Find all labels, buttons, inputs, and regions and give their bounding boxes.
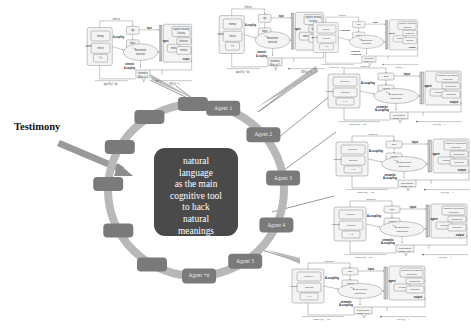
ring-node-shape xyxy=(178,97,208,111)
sd-sign-box: sign xyxy=(384,206,400,213)
sd-self-box-label: I / it xyxy=(349,233,353,236)
sd-interaction-ellipse-label: interaction xyxy=(268,41,278,44)
sd-interface-box: interface xyxy=(403,37,417,43)
agent-subdiagram[interactable]: memoryinterestI / itcontextrefers tosign… xyxy=(217,5,324,73)
sd-context-ellipse-link xyxy=(360,91,374,94)
agent-subdiagram[interactable]: memoryinterestI / itcontextrefers tosign… xyxy=(289,260,426,321)
agent-subdiagram[interactable]: memoryinterestI / itcontextrefers tosign… xyxy=(333,133,470,194)
center-statement-line: as the main xyxy=(175,179,218,189)
sd-interest-box-label: interest xyxy=(305,286,314,289)
sd-a-coupling-label: A-coupling xyxy=(245,23,256,28)
sd-self-box-label: I / it xyxy=(343,100,347,103)
sd-interaction-ellipse-label: interaction xyxy=(398,165,410,168)
sd-interface-box-label: interface xyxy=(454,161,464,164)
sd-a-coupling-label: A-coupling xyxy=(361,81,375,85)
ring-node-unlabeled[interactable] xyxy=(137,258,167,272)
sd-right-formula: P(P(x)) = 1 xyxy=(440,190,454,194)
sd-interaction-ellipse-label: interaction xyxy=(396,230,408,233)
sd-media-box-label: media xyxy=(303,35,309,38)
ring-node-agent-n[interactable]: Agent +n xyxy=(182,268,216,283)
sd-context-ellipse-link xyxy=(324,286,338,289)
sd-sign-box-label: sign xyxy=(348,270,353,273)
sd-right-formula-dot xyxy=(424,189,426,191)
sd-right-formula-dot xyxy=(380,316,382,318)
sd-refers-to-label: refers to xyxy=(113,17,121,20)
sd-self-box-label: I / it xyxy=(307,295,311,298)
sd-sign-box-label: sign xyxy=(131,29,135,32)
ring-node-unlabeled[interactable] xyxy=(134,110,164,124)
ring-node-unlabeled[interactable] xyxy=(178,97,208,111)
sd-right-formula-dot xyxy=(382,64,383,65)
sd-sign-box-label: sign xyxy=(392,143,397,146)
sd-behaviour-box-label: behaviour xyxy=(410,280,421,283)
sd-input-label: input xyxy=(368,267,375,271)
sd-refers-to-label: refers to xyxy=(360,65,370,68)
sd-semantic-label-1: semantic xyxy=(340,300,352,304)
sd-sign-box: sign xyxy=(386,141,402,148)
sd-agent-label: agent xyxy=(424,84,431,88)
sd-interaction-ellipse-label: sensorimotor xyxy=(395,226,410,229)
center-statement-line: to hack xyxy=(182,202,210,212)
ring-node-shape xyxy=(105,140,135,154)
sd-memory-box-label: memory xyxy=(323,28,331,30)
sd-a-coupling-label: A-coupling xyxy=(339,29,351,31)
sd-output-label: output xyxy=(458,168,466,172)
sd-cognitive-label-2: & tooling xyxy=(407,273,417,276)
sd-semantic-label-2: A-coupling xyxy=(375,108,389,112)
sd-interest-box: interest xyxy=(333,88,357,97)
ring-node-agent-4[interactable]: Agent 4 xyxy=(259,218,293,233)
sd-self-box: I / it xyxy=(93,54,107,62)
sd-context-label: context xyxy=(331,223,339,226)
sd-self-box-label: I / it xyxy=(325,45,329,47)
ring-node-unlabeled[interactable] xyxy=(103,223,133,237)
sd-left-formula: lapis P(x) = kte xyxy=(349,122,367,126)
sd-interest-box-label: interest xyxy=(323,37,330,39)
center-statement-line: language xyxy=(179,168,213,178)
sd-context-label: context xyxy=(85,45,92,48)
ring-node-shape xyxy=(134,110,164,124)
ring-node-agent-3[interactable]: Agent 3 xyxy=(266,171,300,186)
sd-self-box: I / it xyxy=(225,42,239,50)
ring-node-unlabeled[interactable] xyxy=(105,140,135,154)
sd-interest-box-label: interest xyxy=(341,91,350,94)
ring-node-unlabeled[interactable] xyxy=(93,177,123,191)
sd-interaction-ellipse-label: interaction xyxy=(354,292,366,295)
sd-refers-to-label: refers to xyxy=(366,198,376,201)
sd-interest-box: interest xyxy=(341,156,365,165)
sd-output-label: output xyxy=(456,233,464,237)
sd-behaviour-box-label: behaviour xyxy=(454,153,465,156)
ring-node-label: Agent 3 xyxy=(274,175,292,181)
sd-semantic-label-2: A-coupling xyxy=(350,53,362,55)
testimony-label: Testimony xyxy=(14,121,61,132)
ring-node-agent-1[interactable]: Agent 1 xyxy=(206,101,240,116)
sd-sign-box-label: sign xyxy=(390,208,395,211)
sd-output-label: output xyxy=(183,56,190,61)
sd-agent-label: agent xyxy=(430,217,437,221)
ring-node-agent-2[interactable]: Agent 2 xyxy=(246,127,280,142)
sd-right-formula-dot xyxy=(422,254,424,256)
sd-refers-to-label: refers to xyxy=(245,5,253,8)
agent-subdiagram[interactable]: memoryinterestI / itcontextrefers tosign… xyxy=(325,65,462,126)
sd-what-is-it-label: What is it ? xyxy=(401,185,414,188)
sd-interaction-ellipse-label: sensorimotor xyxy=(389,93,404,96)
sd-cognitive-label-1: cognitive meaning xyxy=(173,28,189,31)
ring-node-agent-5[interactable]: Agent 5 xyxy=(228,254,262,269)
agent-subdiagram[interactable]: memoryinterestI / itcontextrefers tosign… xyxy=(331,198,468,259)
sd-information-callout: informationWhat is it ? xyxy=(268,58,282,70)
sd-media-box-label: media xyxy=(435,91,442,94)
sd-input-label: input xyxy=(147,25,152,30)
sd-input-label: input xyxy=(279,13,284,18)
sd-context-label: context xyxy=(311,36,318,38)
sd-interaction-ellipse-label: sensorimotor xyxy=(361,39,373,41)
sd-self-box: I / it xyxy=(300,293,318,300)
sd-interest-box: interest xyxy=(297,283,321,292)
center-statement: naturallanguageas the maincognitive tool… xyxy=(154,148,238,236)
agent-subdiagram[interactable]: memoryinterestI / itcontextrefers tosign… xyxy=(85,17,192,85)
sd-what-is-it-label: What is it ? xyxy=(364,60,374,62)
sd-right-formula: P(P(x)) = 1 xyxy=(396,317,410,321)
agent-subdiagram[interactable]: memoryinterestI / itcontextrefers tosign… xyxy=(311,14,418,69)
sd-self-box: I / it xyxy=(319,44,333,50)
sd-agent-label: agent xyxy=(388,279,395,283)
sd-semantic-label-2: A-coupling xyxy=(381,241,395,245)
agent-subdiagram-connector-wedge xyxy=(268,250,300,264)
